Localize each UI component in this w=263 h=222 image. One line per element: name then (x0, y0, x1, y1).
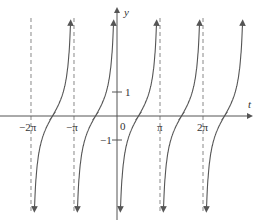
tick-label-pi: π (157, 121, 163, 133)
tick-label-yneg1: −1 (100, 134, 112, 146)
tick-label-neg2pi: −2π (19, 121, 37, 133)
cotangent-graph: y t 0 1 −1 −2π −π π 2π (0, 0, 263, 222)
origin-label: 0 (120, 120, 126, 132)
tick-label-2pi: 2π (197, 121, 209, 133)
tick-label-y1: 1 (125, 86, 131, 98)
t-axis-label: t (248, 98, 252, 110)
y-axis-label: y (123, 6, 129, 18)
tick-label-negpi: −π (66, 121, 78, 133)
